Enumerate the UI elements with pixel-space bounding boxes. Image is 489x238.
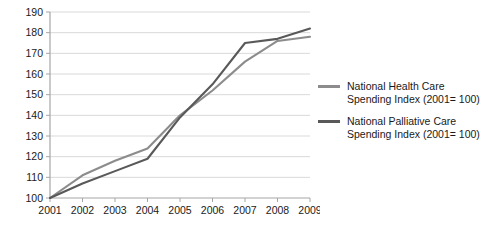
chart-container: 100110120130140150160170180190 200120022… bbox=[0, 0, 489, 238]
y-tick-label: 110 bbox=[26, 171, 43, 183]
legend-label-health-care: National Health Care Spending Index (200… bbox=[347, 80, 480, 106]
x-tick-label: 2008 bbox=[266, 204, 290, 216]
x-axis bbox=[50, 198, 310, 202]
x-tick-label: 2001 bbox=[38, 204, 62, 216]
y-axis bbox=[46, 12, 50, 198]
x-tick-labels: 200120022003200420052006200720082009 bbox=[38, 204, 320, 216]
x-tick-label: 2003 bbox=[103, 204, 127, 216]
legend-swatch-health-care bbox=[318, 85, 340, 88]
x-tick-label: 2002 bbox=[71, 204, 95, 216]
x-tick-label: 2005 bbox=[168, 204, 192, 216]
y-tick-labels: 100110120130140150160170180190 bbox=[25, 6, 43, 204]
gridlines bbox=[50, 12, 310, 177]
x-tick-label: 2007 bbox=[233, 204, 257, 216]
x-tick-label: 2004 bbox=[136, 204, 160, 216]
y-tick-label: 100 bbox=[25, 192, 43, 204]
y-tick-label: 140 bbox=[25, 109, 43, 121]
legend-item-palliative-care: National Palliative Care Spending Index … bbox=[318, 115, 489, 141]
plot-area: 100110120130140150160170180190 200120022… bbox=[0, 0, 320, 238]
data-series bbox=[50, 29, 310, 198]
y-tick-label: 160 bbox=[25, 68, 43, 80]
y-tick-label: 180 bbox=[25, 26, 43, 38]
legend-label-palliative-care: National Palliative Care Spending Index … bbox=[347, 115, 480, 141]
y-tick-label: 170 bbox=[25, 47, 43, 59]
y-tick-label: 120 bbox=[25, 150, 43, 162]
y-tick-label: 130 bbox=[25, 130, 43, 142]
legend-swatch-palliative-care bbox=[318, 120, 340, 123]
x-tick-label: 2006 bbox=[201, 204, 225, 216]
chart-legend: National Health Care Spending Index (200… bbox=[318, 80, 489, 150]
line-chart-svg: 100110120130140150160170180190 200120022… bbox=[0, 0, 320, 238]
y-tick-label: 150 bbox=[25, 88, 43, 100]
legend-item-health-care: National Health Care Spending Index (200… bbox=[318, 80, 489, 106]
y-tick-label: 190 bbox=[25, 6, 43, 18]
x-tick-label: 2009 bbox=[298, 204, 320, 216]
